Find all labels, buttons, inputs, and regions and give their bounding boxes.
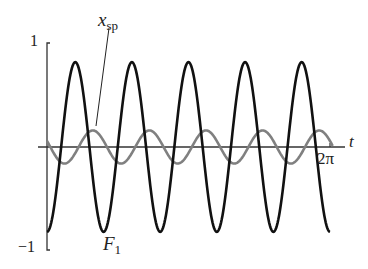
x-tick-2pi-label: 2π xyxy=(317,149,334,169)
f1-label-sub: 1 xyxy=(115,242,122,257)
y-tick-1: 1 xyxy=(30,32,38,50)
y-tick-minus1: −1 xyxy=(18,238,35,256)
f1-label-main: F xyxy=(103,233,115,254)
xsp-leader-line xyxy=(96,28,109,126)
x-axis-label: t xyxy=(349,132,354,152)
xsp-label-sub: sp xyxy=(106,18,118,33)
plot-area xyxy=(0,0,368,269)
f1-label: F1 xyxy=(103,233,121,255)
xsp-label: xsp xyxy=(98,9,118,31)
